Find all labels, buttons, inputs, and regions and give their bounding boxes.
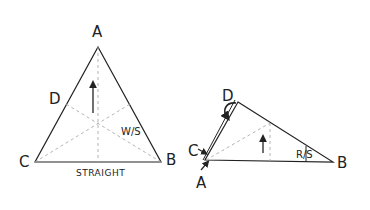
arrow-a-icon (201, 163, 207, 170)
label-b: B (166, 151, 176, 169)
label-c: C (188, 142, 198, 160)
label-a: A (196, 174, 207, 192)
fold-edge (203, 100, 235, 160)
median-c (35, 104, 130, 162)
fold-diagram: A D C B W/S STRAIGHT D C A B R/S (0, 0, 370, 210)
left-triangle-figure: A D C B W/S STRAIGHT (19, 23, 176, 178)
label-b: B (337, 154, 347, 172)
right-triangle-figure: D C A B R/S (188, 87, 347, 192)
label-c: C (19, 153, 29, 171)
label-a: A (92, 23, 103, 41)
median-b (66, 104, 161, 162)
label-ws: W/S (121, 126, 141, 137)
label-straight: STRAIGHT (76, 168, 125, 178)
label-d: D (49, 90, 61, 108)
label-d: D (222, 87, 234, 105)
label-rs: R/S (296, 149, 313, 160)
arrow-c-icon (198, 149, 205, 153)
